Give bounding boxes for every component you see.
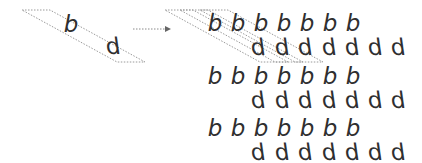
grid-letter-b: b [300,12,315,35]
grid-letter-d: d [320,36,338,59]
grid-letter-d: d [296,36,314,59]
grid-letter-b: b [208,12,223,35]
grid-letter-b: b [323,65,338,88]
grid-letter-b: b [254,12,269,35]
grid-letter-d: d [273,141,291,163]
grid-letter-d: d [273,36,291,59]
grid-letter-b: b [277,117,292,140]
source-letter-d: d [104,35,122,58]
source-parallelogram [22,10,145,62]
grid-letter-d: d [366,89,384,112]
grid-letter-d: d [320,89,338,112]
grid-letter-b: b [231,65,246,88]
grid-letter-b: b [300,117,315,140]
grid-letter-d: d [273,89,291,112]
grid-letter-b: b [231,12,246,35]
grid-letter-b: b [300,65,315,88]
grid-letter-d: d [296,89,314,112]
grid-letter-b: b [277,12,292,35]
grid-letter-d: d [389,36,407,59]
grid-letter-d: d [249,141,267,163]
grid-letter-b: b [346,65,361,88]
grid-letter-d: d [389,141,407,163]
grid-letter-d: d [343,141,361,163]
grid-letter-d: d [249,89,267,112]
grid-letter-b: b [208,117,223,140]
grid-letter-b: b [323,117,338,140]
grid-letter-b: b [346,12,361,35]
grid-letter-d: d [296,141,314,163]
grid-letter-b: b [231,117,246,140]
grid-letter-b: b [254,117,269,140]
arrow-icon [133,26,171,32]
grid-letter-b: b [346,117,361,140]
grid-letter-b: b [254,65,269,88]
grid-letter-b: b [277,65,292,88]
grid-letter-d: d [389,89,407,112]
grid-letter-b: b [323,12,338,35]
source-letter-b: b [64,13,79,36]
diagram-canvas: bdbbbbbbbbbbbbbbbbbbbbbddddddddddddddddd… [0,0,422,162]
grid-letter-d: d [343,89,361,112]
grid-letter-d: d [249,36,267,59]
grid-letter-d: d [320,141,338,163]
grid-letter-d: d [366,36,384,59]
grid-letter-b: b [208,65,223,88]
grid-letter-d: d [366,141,384,163]
grid-letter-d: d [343,36,361,59]
